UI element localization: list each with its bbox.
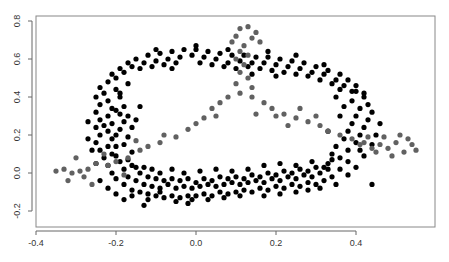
ring-point [129,150,134,155]
branch-point [273,113,278,118]
x-tick-label: -0.4 [28,238,44,248]
branch-point [121,172,126,177]
ring-point [165,182,170,187]
ring-point [253,178,258,183]
branch-point [369,146,374,151]
ring-point [129,163,134,168]
branch-point [297,106,302,111]
ring-point [205,197,210,202]
ring-point [181,184,186,189]
ring-point [217,174,222,179]
branch-point [101,151,106,156]
ring-point [125,113,130,118]
ring-point [345,172,350,177]
branch-point [357,142,362,147]
ring-point [237,182,242,187]
ring-point [101,123,106,128]
ring-point [197,60,202,65]
y-axis: -0.20.00.20.40.60.8 [12,15,32,219]
ring-point [337,167,342,172]
ring-point [309,174,314,179]
ring-point [313,64,318,69]
ring-point [177,178,182,183]
ring-point [233,174,238,179]
ring-point [185,193,190,198]
ring-point [201,55,206,60]
branch-point [69,170,74,175]
ring-point [313,182,318,187]
ring-point [129,64,134,69]
ring-point [225,176,230,181]
ring-point [277,161,282,166]
ring-point [109,72,114,77]
ring-point [373,132,378,137]
ring-point [285,64,290,69]
ring-point [169,49,174,54]
ring-point [293,176,298,181]
branch-point [377,142,382,147]
ring-point [293,189,298,194]
ring-point [217,189,222,194]
ring-point [213,184,218,189]
ring-point [253,55,258,60]
branch-point [269,106,274,111]
ring-point [285,174,290,179]
ring-point [129,125,134,130]
ring-point [141,203,146,208]
branch-point [137,148,142,153]
x-tick-label: -0.2 [108,238,124,248]
ring-point [317,77,322,82]
ring-point [345,77,350,82]
ring-point [269,176,274,181]
ring-point [277,56,282,61]
ring-point [249,72,254,77]
ring-point [325,68,330,73]
ring-point [189,186,194,191]
ring-point [121,70,126,75]
branch-point [245,53,250,58]
ring-point [185,201,190,206]
branch-point [249,85,254,90]
branch-point [105,163,110,168]
ring-point [305,169,310,174]
y-tick-label: 0.0 [12,167,22,180]
ring-point [353,83,358,88]
ring-point [273,62,278,67]
ring-point [265,55,270,60]
ring-point [109,170,114,175]
ring-point [305,188,310,193]
ring-point [181,170,186,175]
branch-point [249,94,254,99]
ring-point [217,51,222,56]
ring-point [333,182,338,187]
ring-point [121,167,126,172]
x-axis: -0.4-0.20.00.20.4 [28,231,362,248]
branch-point [201,115,206,120]
ring-point [157,189,162,194]
ring-point [97,178,102,183]
ring-point [161,195,166,200]
ring-point [113,108,118,113]
ring-point [177,55,182,60]
ring-point [137,66,142,71]
x-tick-label: 0.4 [350,238,363,248]
ring-point [353,165,358,170]
branch-point [409,142,414,147]
ring-point [141,60,146,65]
ring-point [273,172,278,177]
ring-point [209,178,214,183]
ring-point [337,113,342,118]
branch-point [253,30,258,35]
ring-point [341,104,346,109]
ring-point [93,140,98,145]
ring-point [249,60,254,65]
ring-point [377,121,382,126]
ring-point [121,142,126,147]
ring-point [121,119,126,124]
ring-point [261,180,266,185]
ring-point [205,49,210,54]
ring-point [309,70,314,75]
branch-point [53,169,58,174]
branch-point [217,100,222,105]
ring-point [345,148,350,153]
